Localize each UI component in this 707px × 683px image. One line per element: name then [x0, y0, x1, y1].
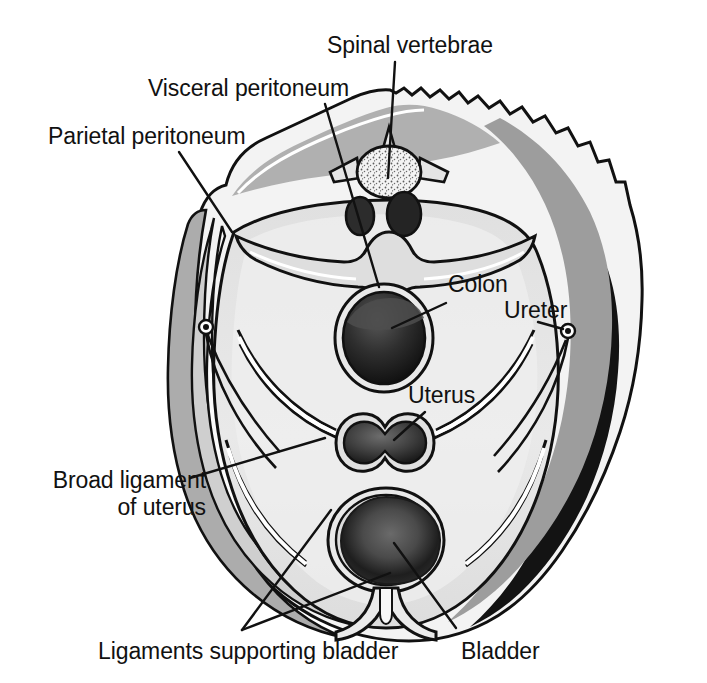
label-spinal-vertebrae: Spinal vertebrae	[327, 32, 493, 59]
bladder-lumen	[341, 497, 440, 584]
aorta	[387, 192, 421, 236]
colon-group	[335, 284, 433, 392]
anatomy-illustration	[0, 0, 707, 683]
label-visceral-peritoneum: Visceral peritoneum	[148, 75, 349, 102]
bladder-group	[328, 488, 444, 592]
label-ureter: Ureter	[504, 297, 567, 324]
ureter-left-lumen	[203, 324, 209, 330]
label-bladder: Bladder	[461, 638, 540, 665]
urethra-lumen	[380, 588, 392, 624]
label-ligaments-supporting-bladder: Ligaments supporting bladder	[98, 638, 398, 665]
label-uterus: Uterus	[408, 382, 475, 409]
ureter-right-lumen	[565, 328, 571, 334]
label-colon: Colon	[448, 271, 508, 298]
vena-cava	[346, 197, 374, 235]
figure-page: Spinal vertebrae Visceral peritoneum Par…	[0, 0, 707, 683]
label-parietal-peritoneum: Parietal peritoneum	[48, 123, 246, 150]
label-broad-ligament-of-uterus: Broad ligament of uterus	[36, 467, 206, 521]
